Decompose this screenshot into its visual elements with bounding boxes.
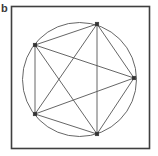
graph-node <box>132 76 136 80</box>
graph-node <box>33 43 37 47</box>
panel-border <box>12 7 150 149</box>
graph-edge <box>97 78 134 134</box>
figure-panel-b: b <box>0 0 158 156</box>
graph-node <box>33 112 37 116</box>
edge-layer <box>35 24 134 134</box>
graph-node <box>95 132 99 136</box>
bounding-circle <box>23 23 137 137</box>
graph-node <box>95 22 99 26</box>
graph-edge <box>35 45 97 134</box>
graph-edge <box>35 45 134 78</box>
graph-edge <box>35 24 97 114</box>
graph-edge <box>35 78 134 114</box>
graph-diagram-svg <box>0 0 158 156</box>
